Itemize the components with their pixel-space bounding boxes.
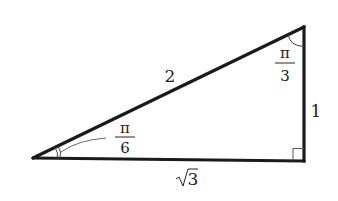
right-angle-marker <box>293 149 304 161</box>
hypotenuse-label: 2 <box>165 66 176 86</box>
angle-label-left: π 6 <box>115 119 135 157</box>
angle-top-right-numerator: π <box>280 44 290 62</box>
vertical-side-label: 1 <box>311 101 322 121</box>
angle-arc-left-2 <box>58 146 61 158</box>
angle-left-numerator: π <box>120 119 130 137</box>
base-label-radicand: 3 <box>188 169 199 189</box>
hypotenuse-line <box>33 27 304 158</box>
angle-top-right-denominator: 3 <box>280 67 290 85</box>
angle-left-denominator: 6 <box>120 139 130 157</box>
angle-arc-top-right <box>288 35 304 47</box>
angle-label-top-right: π 3 <box>275 44 295 85</box>
triangle <box>33 27 304 161</box>
base-line <box>33 158 304 161</box>
base-label: 3 <box>176 169 198 189</box>
right-triangle-diagram: 2 1 3 π 6 π 3 <box>0 0 338 201</box>
